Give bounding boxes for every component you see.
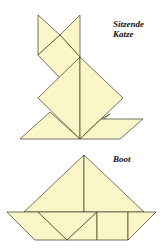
boat-title: Boot <box>113 154 131 164</box>
boat-hull-right <box>128 212 156 240</box>
cat-title: Sitzende Katze <box>113 19 144 39</box>
boat-figure <box>7 155 156 240</box>
cat-title-line2: Katze <box>113 29 144 39</box>
boat-title-line1: Boot <box>113 154 131 164</box>
boat-hull-square <box>97 212 128 240</box>
cat-title-line1: Sitzende <box>113 19 144 29</box>
boat-sail-left <box>24 155 84 212</box>
